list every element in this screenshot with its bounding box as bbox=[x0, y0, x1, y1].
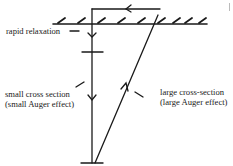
hatch-mark bbox=[158, 18, 165, 23]
hatch-mark bbox=[138, 18, 145, 23]
large-cross-section-leader bbox=[135, 92, 143, 97]
small-cross-section-label: small cross section (small Auger effect) bbox=[5, 90, 74, 109]
diagonal-transition bbox=[95, 15, 158, 163]
large-cross-section-line2: (large Auger effect) bbox=[160, 98, 227, 108]
surface-hatching bbox=[58, 18, 206, 23]
small-cross-section-leader bbox=[76, 82, 84, 87]
small-cross-section-line2: (small Auger effect) bbox=[5, 100, 74, 110]
large-cross-section-label: large cross-section (large Auger effect) bbox=[160, 88, 227, 107]
hatch-mark bbox=[78, 18, 85, 23]
hatch-mark bbox=[58, 18, 65, 23]
hatch-mark bbox=[98, 18, 105, 23]
hatch-mark bbox=[118, 18, 125, 23]
auger-diagram bbox=[0, 0, 233, 166]
page-edge-mark bbox=[229, 3, 233, 11]
hatch-mark bbox=[199, 18, 206, 23]
hatch-mark bbox=[185, 18, 192, 23]
rapid-relaxation-label: rapid relaxation bbox=[6, 27, 60, 37]
hatch-mark bbox=[173, 18, 180, 23]
arrow-up-icon bbox=[121, 83, 128, 91]
